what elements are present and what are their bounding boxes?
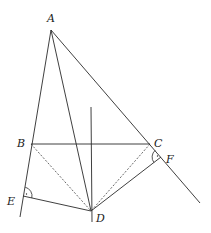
point-label-d: D bbox=[95, 212, 105, 225]
right-angle-dot-f bbox=[157, 155, 158, 156]
segment-C-D bbox=[91, 144, 150, 211]
segment-A-D bbox=[51, 30, 91, 211]
right-angle-mark-f bbox=[152, 150, 155, 162]
point-label-c: C bbox=[154, 137, 163, 150]
line-A-C-F bbox=[51, 30, 200, 203]
point-label-b: B bbox=[16, 137, 25, 150]
right-angle-dot-e bbox=[26, 193, 27, 194]
point-label-e: E bbox=[6, 195, 15, 208]
point-label-f: F bbox=[165, 153, 174, 166]
segment-F-D bbox=[91, 157, 161, 211]
segments-group bbox=[20, 30, 200, 222]
segment-B-D bbox=[31, 144, 91, 211]
line-A-B-E bbox=[20, 30, 51, 217]
perpendicular-bisector-BC bbox=[91, 107, 92, 222]
geometry-diagram: ABCDEF bbox=[0, 0, 211, 233]
point-label-a: A bbox=[46, 12, 55, 25]
segment-E-D bbox=[23, 196, 91, 211]
